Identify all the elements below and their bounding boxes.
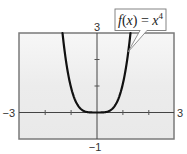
x-max-label: 3 (177, 107, 183, 119)
function-graph: −3 3 3 −1 f(x) = x4 (0, 0, 187, 154)
x-min-label: −3 (2, 107, 15, 119)
y-max-label: 3 (94, 21, 100, 33)
function-label: f(x) = x4 (118, 11, 164, 29)
y-min-label: −1 (89, 141, 102, 153)
